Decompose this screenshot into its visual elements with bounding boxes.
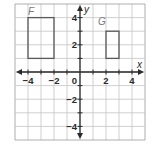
x-axis-label: x — [136, 59, 143, 70]
x-tick-label: 2 — [103, 75, 108, 86]
shape-label-g: G — [98, 16, 106, 27]
y-tick-label: −4 — [66, 121, 78, 132]
coordinate-grid-svg: FG−4−22442−2−40xy — [0, 0, 152, 149]
y-tick-label: −2 — [66, 94, 77, 105]
y-axis-arrow-up-icon — [77, 5, 83, 11]
x-axis-arrow-left-icon — [16, 69, 22, 75]
coordinate-plane: FG−4−22442−2−40xy — [0, 0, 152, 149]
y-axis-label: y — [83, 4, 90, 15]
axes — [16, 5, 144, 139]
x-tick-label: 4 — [129, 75, 135, 86]
y-axis-arrow-down-icon — [77, 133, 83, 139]
y-tick-label: 4 — [72, 12, 78, 23]
origin-label: 0 — [72, 75, 77, 86]
x-tick-label: −4 — [23, 75, 35, 86]
x-tick-label: −2 — [49, 75, 60, 86]
shape-label-f: F — [28, 6, 35, 17]
y-tick-label: 2 — [72, 39, 77, 50]
